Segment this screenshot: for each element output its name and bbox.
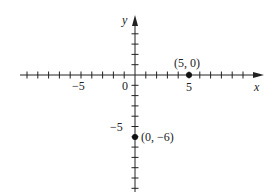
y-axis-arrow-icon bbox=[132, 15, 138, 26]
y-tick-label-neg5: −5 bbox=[110, 120, 123, 134]
x-tick-label-neg5: −5 bbox=[72, 79, 85, 93]
x-axis-label: x bbox=[253, 80, 260, 94]
x-axis-arrow-icon bbox=[253, 72, 264, 78]
point-5-0-label: (5, 0) bbox=[174, 56, 200, 70]
point-5-0 bbox=[186, 72, 192, 78]
axes bbox=[20, 15, 264, 192]
point-0-neg6 bbox=[132, 134, 138, 140]
coordinate-plane: x y −5 0 5 −5 (5, 0) (0, −6) bbox=[0, 0, 274, 192]
x-tick-label-5: 5 bbox=[186, 80, 192, 94]
y-axis-label: y bbox=[121, 13, 128, 27]
origin-label: 0 bbox=[122, 79, 128, 93]
point-0-neg6-label: (0, −6) bbox=[141, 130, 174, 144]
